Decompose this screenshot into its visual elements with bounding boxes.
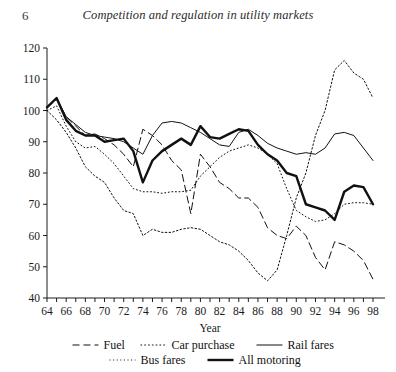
x-axis-ticks: 646668707274767880828486889092949698 <box>41 298 379 317</box>
running-title: Competition and regulation in utility ma… <box>0 8 396 23</box>
x-tick-label: 82 <box>214 305 226 317</box>
chart-legend: FuelCar purchaseRail faresBus faresAll m… <box>73 338 335 367</box>
x-tick-label: 86 <box>252 305 264 317</box>
y-tick-label: 110 <box>23 73 40 85</box>
x-tick-label: 64 <box>41 305 53 317</box>
y-tick-label: 50 <box>29 261 41 273</box>
x-tick-label: 72 <box>118 305 130 317</box>
legend-label: Fuel <box>104 338 126 352</box>
line-chart-figure: 405060708090100110120 646668707274767880… <box>0 30 396 372</box>
x-tick-label: 98 <box>367 305 379 317</box>
page-root: 6 Competition and regulation in utility … <box>0 0 396 372</box>
series-lines <box>47 61 373 281</box>
x-tick-label: 76 <box>156 305 168 317</box>
y-tick-label: 80 <box>29 167 41 179</box>
x-tick-label: 70 <box>99 305 111 317</box>
series-line <box>47 106 373 222</box>
axis-lines <box>47 48 385 298</box>
y-tick-label: 70 <box>29 198 41 210</box>
y-tick-label: 40 <box>29 292 41 304</box>
x-tick-label: 96 <box>348 305 360 317</box>
legend-label: Rail fares <box>288 338 335 352</box>
y-tick-label: 90 <box>29 136 41 148</box>
x-tick-label: 66 <box>60 305 72 317</box>
legend-label: All motoring <box>239 353 301 367</box>
x-tick-label: 88 <box>271 305 283 317</box>
y-tick-label: 120 <box>23 42 41 54</box>
legend-label: Bus fares <box>141 353 186 367</box>
x-tick-label: 74 <box>137 305 149 317</box>
y-tick-label: 60 <box>29 230 41 242</box>
x-tick-label: 90 <box>291 305 303 317</box>
series-line <box>47 100 373 280</box>
x-tick-label: 68 <box>80 305 92 317</box>
running-head: 6 Competition and regulation in utility … <box>0 8 396 28</box>
x-tick-label: 84 <box>233 305 245 317</box>
x-tick-label: 78 <box>175 305 187 317</box>
series-line <box>47 98 373 161</box>
series-line <box>47 98 373 220</box>
x-tick-label: 80 <box>195 305 207 317</box>
y-tick-label: 100 <box>23 105 41 117</box>
x-axis-title: Year <box>199 322 220 334</box>
series-line <box>47 61 373 281</box>
y-axis-ticks: 405060708090100110120 <box>23 42 47 304</box>
legend-label: Car purchase <box>172 338 235 352</box>
x-tick-label: 94 <box>329 305 341 317</box>
chart-canvas: 405060708090100110120 646668707274767880… <box>0 30 396 372</box>
x-tick-label: 92 <box>310 305 322 317</box>
